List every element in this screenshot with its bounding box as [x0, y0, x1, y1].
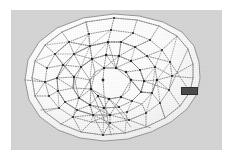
ellipsoid-mesh-svg[interactable] — [11, 10, 222, 150]
vertex-marker[interactable] — [181, 87, 198, 95]
silhouette-outline — [25, 14, 200, 141]
screenshot-root — [0, 0, 233, 162]
render-canvas[interactable] — [11, 10, 222, 150]
